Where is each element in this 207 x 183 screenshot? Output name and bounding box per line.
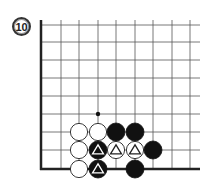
go-board bbox=[0, 0, 207, 183]
white-stone bbox=[70, 123, 87, 140]
white-stone bbox=[89, 123, 106, 140]
black-stone bbox=[144, 141, 162, 159]
white-stone bbox=[126, 141, 143, 158]
white-stone bbox=[70, 141, 87, 158]
board-markers bbox=[96, 112, 100, 116]
black-stone bbox=[126, 123, 144, 141]
black-stone bbox=[126, 160, 144, 178]
black-stone bbox=[107, 123, 125, 141]
white-stone bbox=[107, 141, 124, 158]
dot-marker bbox=[96, 112, 100, 116]
black-stone bbox=[89, 141, 107, 159]
white-stone bbox=[70, 160, 87, 177]
black-stone bbox=[89, 160, 107, 178]
